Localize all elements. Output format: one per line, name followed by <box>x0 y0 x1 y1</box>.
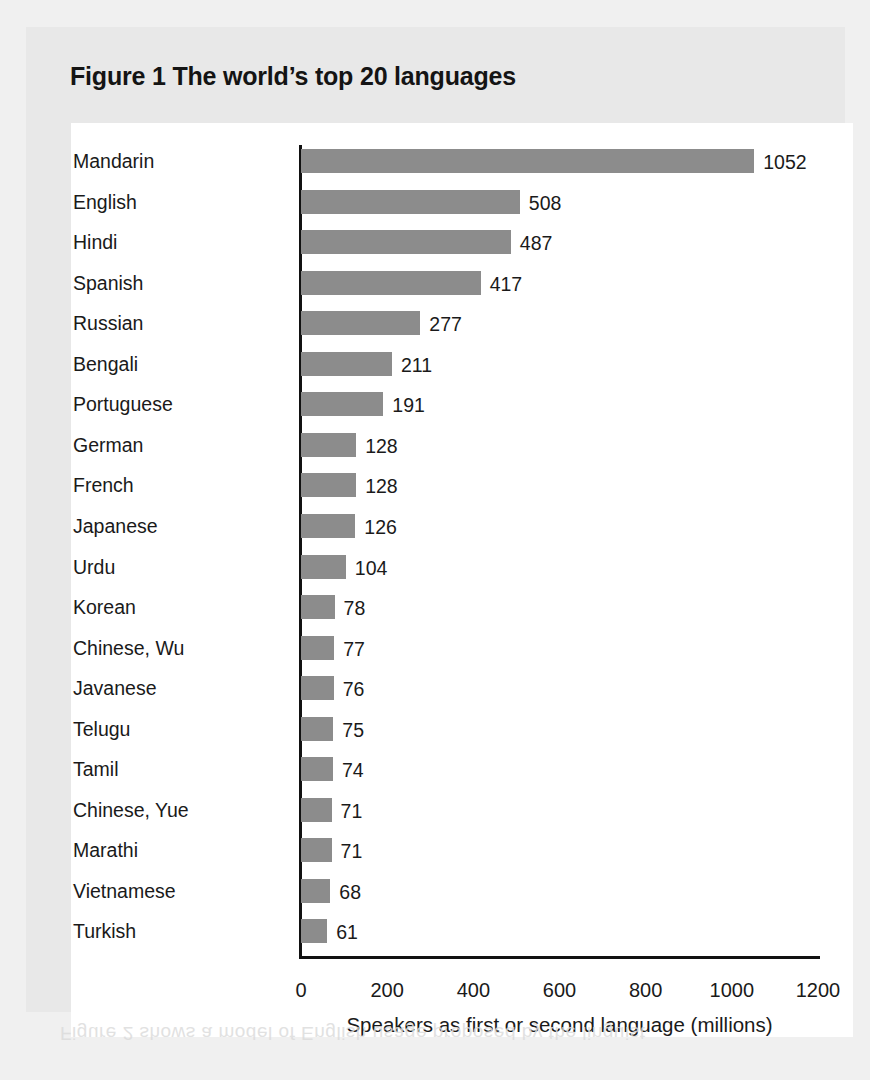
category-label: Turkish <box>73 922 136 942</box>
bar-value-label: 211 <box>401 356 432 376</box>
bar <box>301 636 334 660</box>
x-axis-line <box>299 956 820 959</box>
bar <box>301 392 383 416</box>
bar <box>301 352 392 376</box>
bar <box>301 311 420 335</box>
category-label: Telugu <box>73 720 130 740</box>
x-axis-tick-label: 1000 <box>710 980 755 1000</box>
category-label: Bengali <box>73 355 138 375</box>
category-label: French <box>73 476 134 496</box>
category-label: Hindi <box>73 233 117 253</box>
bar-value-label: 68 <box>339 883 361 903</box>
bar-value-label: 128 <box>365 477 398 497</box>
page-bleed-through-text: Figure 2 shows a model of English usage … <box>60 1022 820 1044</box>
bar-value-label: 508 <box>529 194 562 214</box>
figure-box: Figure 1 The world’s top 20 languages Ma… <box>26 27 845 1012</box>
bar <box>301 717 333 741</box>
category-label: German <box>73 436 143 456</box>
x-axis-tick-label: 200 <box>370 980 403 1000</box>
bar-value-label: 1052 <box>763 153 806 173</box>
category-label: Vietnamese <box>73 882 176 902</box>
category-label: Chinese, Yue <box>73 801 189 821</box>
category-label: Korean <box>73 598 136 618</box>
bar-value-label: 74 <box>342 761 364 781</box>
bar-value-label: 75 <box>342 721 364 741</box>
category-label: Chinese, Wu <box>73 639 184 659</box>
bar <box>301 919 327 943</box>
bar <box>301 595 335 619</box>
category-label: Urdu <box>73 558 115 578</box>
x-axis-tick-label: 0 <box>295 980 306 1000</box>
x-axis-tick-label: 400 <box>457 980 490 1000</box>
category-label: Japanese <box>73 517 158 537</box>
category-label: Javanese <box>73 679 156 699</box>
scanned-page-background: Figure 1 The world’s top 20 languages Ma… <box>0 0 870 1080</box>
bar <box>301 676 334 700</box>
category-label: Spanish <box>73 274 143 294</box>
bar <box>301 433 356 457</box>
bar-value-label: 487 <box>520 234 553 254</box>
bar-value-label: 61 <box>336 923 358 943</box>
bar <box>301 190 520 214</box>
bar <box>301 879 330 903</box>
category-label: Mandarin <box>73 152 154 172</box>
bar-value-label: 76 <box>343 680 365 700</box>
bar <box>301 757 333 781</box>
y-axis-line <box>299 145 302 959</box>
category-label: English <box>73 193 137 213</box>
bar <box>301 838 332 862</box>
chart-panel: Mandarin1052English508Hindi487Spanish417… <box>71 123 853 1037</box>
figure-title: Figure 1 The world’s top 20 languages <box>70 62 516 91</box>
bar-value-label: 277 <box>429 315 462 335</box>
bar <box>301 149 754 173</box>
bar <box>301 230 511 254</box>
bar-value-label: 77 <box>343 640 365 660</box>
bar <box>301 473 356 497</box>
bar <box>301 514 355 538</box>
category-label: Tamil <box>73 760 119 780</box>
bar-value-label: 126 <box>364 518 397 538</box>
bar-value-label: 71 <box>341 802 363 822</box>
category-label: Marathi <box>73 841 138 861</box>
bar-value-label: 71 <box>341 842 363 862</box>
bar-value-label: 104 <box>355 559 388 579</box>
x-axis-tick-label: 800 <box>629 980 662 1000</box>
category-label: Russian <box>73 314 143 334</box>
bar <box>301 271 481 295</box>
bar-value-label: 417 <box>490 275 523 295</box>
bar-value-label: 128 <box>365 437 398 457</box>
bar <box>301 798 332 822</box>
bar-value-label: 78 <box>344 599 366 619</box>
x-axis-tick-label: 600 <box>543 980 576 1000</box>
x-axis-tick-label: 1200 <box>796 980 841 1000</box>
bar <box>301 555 346 579</box>
category-label: Portuguese <box>73 395 173 415</box>
bar-chart: Mandarin1052English508Hindi487Spanish417… <box>71 123 853 1037</box>
bar-value-label: 191 <box>392 396 425 416</box>
